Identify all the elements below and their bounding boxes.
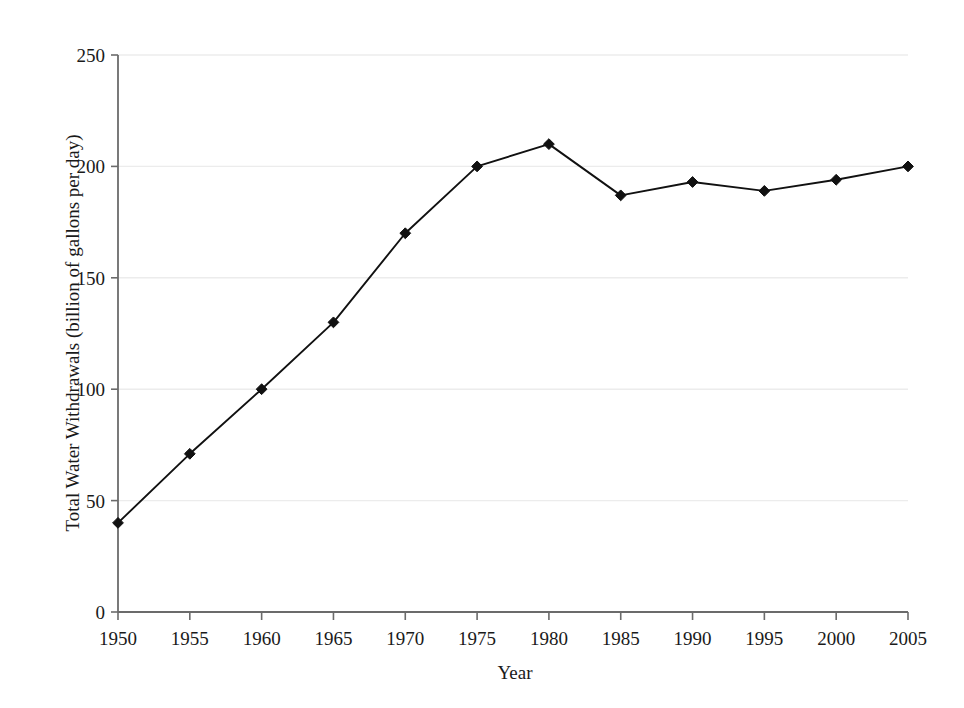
x-tick-label: 1975 — [458, 629, 496, 648]
data-point-markers — [113, 139, 914, 529]
x-tick-label: 2000 — [817, 629, 855, 648]
x-tick-label: 1960 — [243, 629, 281, 648]
y-axis-title: Total Water Withdrawals (billion of gall… — [62, 53, 84, 613]
x-axis-title: Year — [497, 662, 532, 684]
data-point-marker — [903, 161, 914, 172]
series-polyline — [118, 144, 908, 523]
x-axis-ticks — [118, 612, 908, 620]
plot-canvas — [0, 0, 964, 708]
x-tick-label: 1995 — [745, 629, 783, 648]
x-tick-label: 1990 — [674, 629, 712, 648]
water-withdrawals-line-chart: 050100150200250 195019551960196519701975… — [0, 0, 964, 708]
data-point-marker — [759, 186, 770, 197]
x-tick-label: 1965 — [314, 629, 352, 648]
x-tick-label: 1985 — [602, 629, 640, 648]
gridlines — [118, 55, 908, 501]
y-axis-ticks — [111, 55, 118, 612]
x-tick-label: 2005 — [889, 629, 927, 648]
data-line-series — [118, 144, 908, 523]
x-tick-label: 1970 — [386, 629, 424, 648]
x-tick-label: 1955 — [171, 629, 209, 648]
x-tick-label: 1980 — [530, 629, 568, 648]
x-tick-label: 1950 — [99, 629, 137, 648]
data-point-marker — [831, 174, 842, 185]
data-point-marker — [687, 177, 698, 188]
